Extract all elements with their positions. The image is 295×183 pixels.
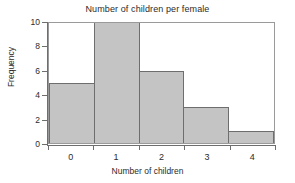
x-tick-mark bbox=[230, 146, 231, 150]
bar-1 bbox=[94, 23, 140, 143]
bar-series bbox=[49, 23, 274, 143]
y-tick-mark bbox=[42, 22, 47, 23]
x-axis-line bbox=[47, 145, 276, 146]
y-tick-mark bbox=[42, 120, 47, 121]
x-tick-label-4: 4 bbox=[232, 152, 272, 162]
x-tick-label-2: 2 bbox=[142, 152, 182, 162]
y-tick-mark bbox=[42, 95, 47, 96]
y-tick-label-2: 2 bbox=[0, 115, 40, 125]
bar-4 bbox=[228, 131, 274, 143]
x-tick-label-3: 3 bbox=[187, 152, 227, 162]
y-axis-label: Frequency bbox=[6, 37, 16, 97]
x-tick-mark bbox=[139, 146, 140, 150]
bar-3 bbox=[183, 107, 229, 143]
x-tick-mark bbox=[275, 146, 276, 150]
x-tick-mark bbox=[48, 146, 49, 150]
y-tick-mark bbox=[42, 144, 47, 145]
x-tick-label-0: 0 bbox=[51, 152, 91, 162]
y-tick-mark bbox=[42, 71, 47, 72]
x-axis-label: Number of children bbox=[0, 166, 295, 176]
plot-area bbox=[48, 22, 275, 144]
y-tick-mark bbox=[42, 46, 47, 47]
x-tick-mark bbox=[93, 146, 94, 150]
chart-title: Number of children per female bbox=[0, 4, 295, 14]
bar-2 bbox=[139, 71, 185, 143]
histogram-figure: Number of children per female 0 2 4 6 8 … bbox=[0, 0, 295, 183]
x-tick-mark bbox=[184, 146, 185, 150]
y-tick-label-0: 0 bbox=[0, 139, 40, 149]
y-tick-label-10: 10 bbox=[0, 17, 40, 27]
bar-0 bbox=[49, 83, 95, 143]
x-tick-label-1: 1 bbox=[96, 152, 136, 162]
